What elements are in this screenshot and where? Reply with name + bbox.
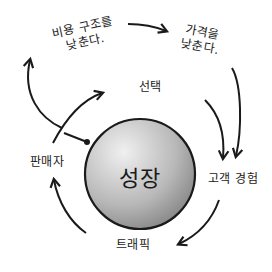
label-selection: 선택 [130, 80, 170, 95]
flywheel-diagram: 성장 선택 고객 경험 트래픽 판매자 비용 구조를 낮춘다. 가격을 낮춘다. [0, 0, 272, 272]
sellers-junction-line [64, 133, 87, 142]
arrow-lowercost-to-prices [128, 24, 166, 31]
label-traffic: 트래픽 [108, 238, 158, 253]
label-growth: 성장 [100, 160, 180, 192]
label-sellers: 판매자 [22, 155, 72, 170]
arrow-sellers-to-lowercost [28, 60, 62, 128]
arrow-prices-to-cx [232, 68, 240, 156]
label-customer-experience: 고객 경험 [198, 172, 268, 187]
arrow-traffic-to-sellers [54, 180, 86, 233]
arrow-sellers-to-selection [53, 93, 102, 143]
arrow-selection-to-cx [205, 100, 223, 158]
